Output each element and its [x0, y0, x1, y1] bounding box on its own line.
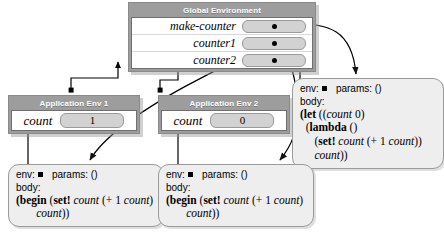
binding-count: count 0: [162, 111, 286, 130]
env-pointer-dot-icon: [188, 172, 193, 177]
procedure-body-label: body:: [300, 96, 436, 108]
procedure-env-label: env:: [300, 83, 319, 95]
code-line-4: count)): [300, 149, 348, 161]
application-env-1-bindings: count 1: [11, 110, 137, 131]
wire-app-env-1-to-global: [71, 62, 118, 90]
global-environment-frame: Global Environment make-counter counter1…: [128, 2, 316, 72]
binding-value: 1: [60, 113, 124, 128]
procedure-params-label: params: (): [52, 169, 98, 181]
code-line-1: (begin (set! count (+ 1 count): [166, 194, 303, 206]
procedure-object-counter1: env: params: () body: (begin (set! count…: [8, 164, 164, 227]
procedure-object-make-counter: env: params: () body: (let ((count 0) (l…: [292, 78, 444, 169]
global-environment-bindings: make-counter counter1 counter2: [131, 17, 313, 69]
binding-make-counter: make-counter: [132, 18, 312, 35]
app-env-1-enclosing-dot: [69, 88, 74, 93]
procedure-body-code: (let ((count 0) (lambda () (set! count (…: [300, 108, 436, 163]
procedure-body-code: (begin (set! count (+ 1 count) count)): [16, 194, 156, 222]
binding-value: 0: [210, 113, 274, 128]
pointer-dot-icon: [272, 24, 277, 29]
binding-value-pointer: [242, 20, 306, 33]
code-line-2: (lambda (): [300, 121, 357, 133]
binding-value-text: 1: [90, 115, 96, 126]
application-env-2-bindings: count 0: [161, 110, 287, 131]
binding-name: counter2: [193, 53, 236, 68]
binding-name: make-counter: [170, 19, 236, 34]
code-line-1: (begin (set! count (+ 1 count): [16, 194, 153, 206]
procedure-body-label: body:: [16, 182, 156, 194]
code-line-1: (let ((count 0): [300, 108, 365, 120]
procedure-object-counter2: env: params: () body: (begin (set! count…: [158, 164, 314, 227]
application-env-1-title: Application Env 1: [11, 98, 137, 110]
binding-counter1: counter1: [132, 35, 312, 52]
application-env-2-frame: Application Env 2 count 0: [158, 95, 290, 134]
procedure-env-label: env:: [16, 169, 35, 181]
binding-name: counter1: [193, 36, 236, 51]
application-env-1-frame: Application Env 1 count 1: [8, 95, 140, 134]
pointer-dot-icon: [272, 41, 277, 46]
procedure-params-label: params: (): [202, 169, 248, 181]
code-line-2: count)): [166, 207, 219, 219]
binding-value-text: 0: [240, 115, 246, 126]
binding-value-pointer: [242, 37, 306, 50]
procedure-params-label: params: (): [336, 83, 382, 95]
binding-value-pointer: [242, 54, 306, 67]
code-line-2: count)): [16, 207, 69, 219]
binding-name: count: [24, 113, 53, 129]
procedure-header: env: params: (): [166, 169, 306, 181]
app-env-2-enclosing-dot: [158, 88, 163, 93]
binding-name: count: [174, 113, 203, 129]
procedure-body-label: body:: [166, 182, 306, 194]
code-line-3: (set! count (+ 1 count)): [300, 135, 422, 147]
binding-count: count 1: [12, 111, 136, 130]
procedure-env-label: env:: [166, 169, 185, 181]
pointer-dot-icon: [272, 58, 277, 63]
env-pointer-dot-icon: [38, 172, 43, 177]
env-pointer-dot-icon: [322, 86, 327, 91]
application-env-2-title: Application Env 2: [161, 98, 287, 110]
procedure-header: env: params: (): [16, 169, 156, 181]
procedure-header: env: params: (): [300, 83, 436, 95]
binding-counter2: counter2: [132, 52, 312, 68]
procedure-body-code: (begin (set! count (+ 1 count) count)): [166, 194, 306, 222]
global-environment-title: Global Environment: [131, 5, 313, 17]
